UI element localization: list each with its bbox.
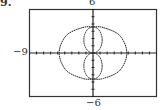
axes — [30, 10, 157, 97]
polar-graph — [0, 0, 161, 110]
